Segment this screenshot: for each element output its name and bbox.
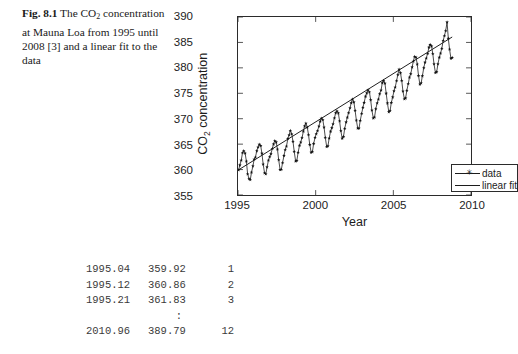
legend-item-data: ✳ data	[455, 167, 514, 179]
listing-index: 2	[210, 278, 234, 294]
listing-year: 1995.12	[86, 278, 148, 294]
legend-fit-label: linear fit	[480, 180, 517, 191]
star-marker-icon: ✳	[466, 170, 471, 175]
chart-legend: ✳ data linear fit	[451, 164, 518, 192]
listing-index: 12	[210, 324, 234, 340]
table-row: 2010.96389.7912	[86, 324, 234, 340]
y-tick-380: 380	[153, 61, 193, 73]
legend-item-linear-fit: linear fit	[455, 179, 514, 191]
chart-canvas	[238, 17, 471, 195]
x-axis-label: Year	[237, 215, 472, 229]
x-tick-2005: 2005	[371, 199, 417, 211]
listing-value: 360.86	[148, 278, 210, 294]
listing-value: 359.92	[148, 262, 210, 278]
listing-value: 389.79	[148, 324, 210, 340]
x-tick-2000: 2000	[292, 199, 338, 211]
legend-data-label: data	[480, 168, 501, 179]
caption-text-part1: The CO	[60, 7, 96, 19]
listing-index: 3	[210, 293, 234, 309]
linear-fit-line	[239, 37, 453, 170]
listing-index: 1	[210, 262, 234, 278]
table-row: 1995.04359.921	[86, 262, 234, 278]
y-tick-375: 375	[153, 87, 193, 99]
listing-year: 2010.96	[86, 324, 148, 340]
listing-year: 1995.21	[86, 293, 148, 309]
plot-area: ✳ data linear fit	[237, 16, 472, 196]
y-tick-370: 370	[153, 113, 193, 125]
y-axis-label-subscript: 2	[202, 131, 212, 136]
figure-number: Fig. 8.1	[22, 7, 57, 19]
listing-ellipsis: :	[148, 309, 210, 325]
listing-year: 1995.04	[86, 262, 148, 278]
y-tick-360: 360	[153, 164, 193, 176]
legend-fit-sample	[455, 180, 480, 190]
table-row: 1995.21361.833	[86, 293, 234, 309]
legend-data-sample: ✳	[455, 168, 480, 178]
data-point-markers	[238, 20, 454, 181]
y-tick-385: 385	[153, 36, 193, 48]
table-row: 1995.12360.862	[86, 278, 234, 294]
y-tick-355: 355	[153, 190, 193, 202]
x-tick-2010: 2010	[449, 199, 495, 211]
y-tick-390: 390	[153, 10, 193, 22]
listing-ellipsis-row: :	[86, 309, 234, 325]
y-axis-label-suffix: concentration	[196, 53, 210, 132]
y-axis-label-prefix: CO	[196, 136, 210, 155]
y-axis-label: CO2 concentration	[196, 29, 212, 179]
y-tick-365: 365	[153, 139, 193, 151]
co2-chart-figure: CO2 concentration 3553603653703753803853…	[176, 4, 492, 236]
legend-fit-line	[455, 185, 480, 186]
listing-value: 361.83	[148, 293, 210, 309]
data-series-line	[239, 22, 453, 180]
x-tick-1995: 1995	[214, 199, 260, 211]
figure-caption: Fig. 8.1 The CO2 concentration at Mauna …	[22, 6, 174, 68]
listing-ellipsis-pad	[86, 309, 148, 325]
listing-ellipsis-pad2	[210, 309, 234, 325]
data-listing-table: 1995.04359.9211995.12360.8621995.21361.8…	[86, 262, 234, 340]
data-listing: 1995.04359.9211995.12360.8621995.21361.8…	[86, 262, 234, 340]
